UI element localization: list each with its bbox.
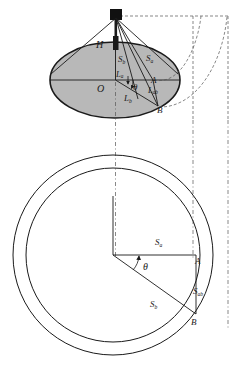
projection-lines [116,82,229,330]
label-ground-lb: Lb [124,94,132,104]
label-radius-sb: Sb [150,300,157,310]
theta-angle-lower [133,256,139,270]
label-slant-sb: Sb [118,55,125,65]
label-origin-O: O [97,84,104,94]
label-theta-lower: θ [143,262,148,272]
diagram-canvas: H Sb Sa La O θ A Lab Lb B Sa A θ Sab Sb … [0,0,235,365]
label-ground-lab: Lab [148,86,158,96]
label-point-a-upper: A [151,76,157,85]
plan-measure-lines [113,196,196,314]
label-height-H: H [96,40,103,50]
label-theta-upper: θ [133,83,137,92]
label-slant-sa: Sa [146,54,153,64]
label-point-a-lower: A [195,257,201,266]
label-ground-la: La [116,70,123,80]
label-point-b-lower: B [191,318,197,327]
label-radius-sa: Sa [155,238,162,248]
label-point-b-upper: B [157,106,163,115]
label-chord-sab: Sab [193,287,203,297]
